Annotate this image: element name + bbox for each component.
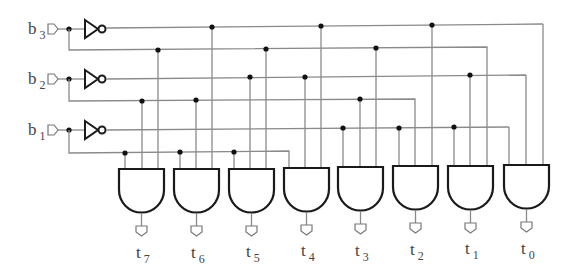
output-label-t7: t7 [136, 244, 150, 261]
output-label-t1: t1 [465, 240, 479, 257]
input-label-b1: b1 [28, 121, 46, 138]
input-pin-icon [48, 74, 58, 84]
inverter-icon [85, 70, 98, 88]
and-gate-t5 [229, 169, 274, 236]
and-gate-t0 [504, 165, 549, 232]
inverter-icon [85, 20, 98, 38]
circuit-svg [0, 0, 576, 274]
and-gate-t3 [338, 167, 383, 234]
input-pin-icon [48, 24, 58, 34]
output-label-t6: t6 [191, 244, 205, 261]
input-b1 [48, 121, 509, 168]
and-gate-t1 [448, 166, 493, 233]
tap-wires [122, 22, 472, 168]
and-gate-t2 [393, 166, 438, 233]
input-pin-icon [48, 125, 58, 135]
input-b3 [48, 20, 543, 168]
output-label-t3: t3 [355, 242, 369, 259]
inverter-icon [85, 121, 98, 139]
output-label-t2: t2 [410, 241, 424, 258]
output-label-t4: t4 [301, 242, 315, 259]
and-gates [119, 165, 549, 236]
and-gate-t4 [284, 168, 329, 235]
input-label-b2: b2 [28, 70, 46, 87]
decoder-diagram: b3 b2 b1 t7 t6 t5 t4 t3 t2 t1 t0 [0, 0, 576, 274]
input-label-b3: b3 [28, 20, 46, 37]
and-gate-t7 [119, 169, 164, 236]
output-label-t0: t0 [521, 240, 535, 257]
output-label-t5: t5 [246, 243, 260, 260]
and-gate-t6 [174, 169, 219, 236]
